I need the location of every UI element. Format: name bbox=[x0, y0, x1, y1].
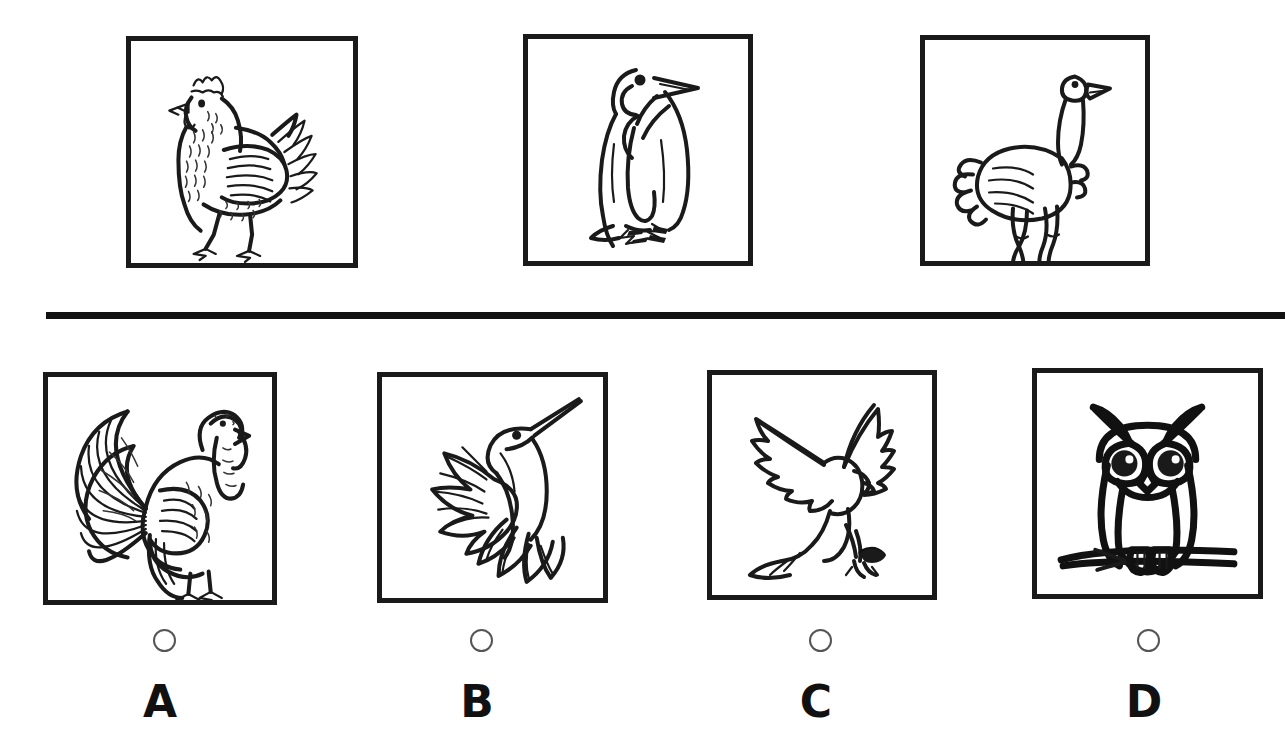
stimulus-image-chicken bbox=[126, 36, 358, 268]
option-label-a: A bbox=[130, 680, 190, 724]
option-label-c: C bbox=[786, 680, 846, 724]
choice-image-turkey[interactable] bbox=[43, 372, 277, 605]
chicken-illustration bbox=[131, 41, 353, 263]
choice-image-eagle[interactable] bbox=[707, 370, 937, 600]
question-canvas: A B C D bbox=[0, 0, 1285, 740]
owl-illustration bbox=[1037, 373, 1258, 594]
turkey-illustration bbox=[48, 377, 272, 600]
choice-image-hummingbird[interactable] bbox=[377, 372, 608, 603]
ostrich-illustration bbox=[925, 40, 1145, 261]
radio-option-c[interactable] bbox=[809, 629, 832, 652]
radio-option-a[interactable] bbox=[153, 629, 176, 652]
radio-option-d[interactable] bbox=[1137, 629, 1160, 652]
penguin-illustration bbox=[528, 39, 748, 261]
eagle-illustration bbox=[712, 375, 932, 595]
hummingbird-illustration bbox=[382, 377, 603, 598]
choice-image-owl[interactable] bbox=[1032, 368, 1263, 599]
horizontal-rule bbox=[46, 312, 1285, 319]
option-label-b: B bbox=[447, 680, 507, 724]
stimulus-image-ostrich bbox=[920, 35, 1150, 266]
radio-option-b[interactable] bbox=[470, 629, 493, 652]
stimulus-image-penguin bbox=[523, 34, 753, 266]
option-label-d: D bbox=[1114, 680, 1174, 724]
